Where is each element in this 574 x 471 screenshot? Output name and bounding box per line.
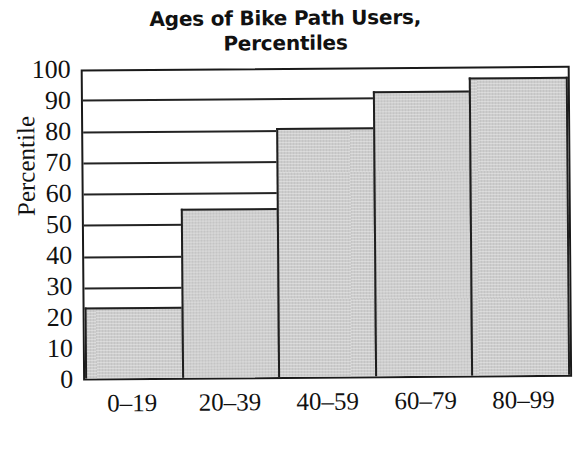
bar — [180, 208, 280, 378]
y-axis-tick-labels: 100 90 80 70 60 50 40 30 20 10 0 — [0, 2, 84, 471]
y-tick-label: 40 — [46, 243, 72, 269]
y-tick-label: 100 — [32, 57, 71, 83]
bar — [85, 307, 184, 378]
y-tick-label: 60 — [46, 181, 72, 207]
bar — [276, 128, 377, 377]
bar — [469, 77, 570, 376]
plot-area — [81, 66, 572, 381]
y-tick-label: 90 — [45, 88, 71, 114]
y-tick-label: 30 — [46, 274, 72, 300]
x-tick-label: 20–39 — [181, 388, 279, 417]
x-axis-tick-labels: 0–19 20–39 40–59 60–79 80–99 — [83, 386, 572, 418]
x-tick-label: 0–19 — [83, 389, 181, 418]
x-tick-label: 80–99 — [474, 386, 572, 415]
y-tick-label: 10 — [47, 336, 73, 362]
y-tick-label: 70 — [45, 150, 71, 176]
chart-title-line-2: Percentiles — [0, 29, 573, 59]
x-tick-label: 40–59 — [279, 387, 377, 416]
y-tick-label: 20 — [47, 305, 73, 331]
chart-title: Ages of Bike Path Users, Percentiles — [0, 4, 573, 59]
y-tick-label: 0 — [60, 367, 73, 393]
bar — [373, 90, 474, 376]
y-tick-label: 80 — [45, 119, 71, 145]
bar-chart-figure: Ages of Bike Path Users, Percentiles Per… — [0, 0, 574, 471]
y-tick-label: 50 — [46, 212, 72, 238]
x-tick-label: 60–79 — [377, 387, 475, 416]
bar-series — [83, 68, 570, 379]
